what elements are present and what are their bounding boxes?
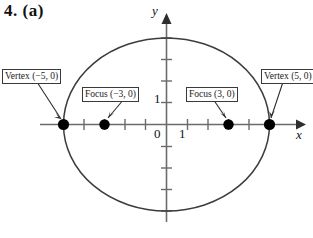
callout-vertex-right: Vertex (5, 0) <box>261 69 313 84</box>
origin-tick-label: 0 <box>154 126 161 142</box>
leader-vertex-left <box>37 82 61 119</box>
callout-arrowheads <box>54 111 275 119</box>
y-axis-label: y <box>152 3 158 19</box>
callout-focus-right: Focus (3, 0) <box>186 87 238 102</box>
vertex-left-point <box>58 119 69 130</box>
callout-vertex-left: Vertex (−5, 0) <box>2 69 61 84</box>
focus-right-point <box>223 119 233 129</box>
x-axis-label: x <box>296 127 302 143</box>
vertex-right-point <box>264 119 275 130</box>
leader-vertex-right <box>271 82 283 118</box>
focus-left-point <box>99 119 109 129</box>
x-axis-unit-tick-label: 1 <box>179 126 186 142</box>
y-axis-unit-tick-label: 1 <box>154 91 161 107</box>
coordinate-plot <box>0 0 313 238</box>
figure-panel: 4. (a) <box>0 0 313 238</box>
callout-focus-left: Focus (−3, 0) <box>82 87 139 102</box>
y-axis <box>162 13 172 222</box>
